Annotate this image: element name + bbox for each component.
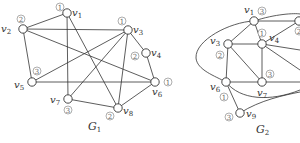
- graph-g2: v13v22v32v41v61v73v93G2: [196, 4, 300, 137]
- color-number: 1: [260, 30, 264, 38]
- color-number: 2: [218, 52, 222, 60]
- vertex-v7: [258, 78, 266, 86]
- color-number: 2: [297, 28, 300, 36]
- vertex-label: v7: [50, 94, 60, 107]
- vertex-v1: [250, 17, 258, 25]
- graph-name: G2: [256, 123, 269, 137]
- vertex-v3: [124, 26, 132, 34]
- vertex-label: v5: [14, 79, 24, 92]
- edge-v3-v6: [226, 44, 228, 82]
- color-number: 3: [227, 114, 231, 122]
- edge: [262, 44, 300, 50]
- vertex-v2: [19, 25, 27, 33]
- vertex-label: v3: [210, 35, 220, 48]
- vertex-label: v7: [257, 87, 267, 100]
- color-number: 3: [268, 71, 272, 79]
- graph-g1: v11v22v31v42v53v61v73v82G1: [1, 3, 172, 134]
- color-number: 1: [58, 4, 62, 12]
- edge-v1-v7: [67, 13, 68, 99]
- vertex-v6: [222, 78, 230, 86]
- color-number: 2: [19, 16, 23, 24]
- edge-v3-v7: [68, 30, 128, 99]
- vertex-v6: [151, 78, 159, 86]
- vertex-v8: [114, 104, 122, 112]
- vertex-v4: [258, 40, 266, 48]
- color-number: 1: [120, 18, 124, 26]
- vertex-v4: [142, 49, 150, 57]
- edge-v2-v5: [23, 29, 32, 82]
- vertex-label: v1: [244, 4, 254, 17]
- color-number: 2: [108, 113, 112, 121]
- edge: [262, 44, 300, 70]
- color-number: 2: [133, 53, 137, 61]
- graph-name: G1: [88, 120, 101, 134]
- edge-v4-v2: [262, 21, 299, 44]
- vertex-label: v3: [133, 24, 143, 37]
- edge-v3-v7: [228, 44, 262, 82]
- vertex-v7: [64, 95, 72, 103]
- color-number: 1: [222, 94, 226, 102]
- color-number: 1: [166, 79, 170, 87]
- vertex-label: v4: [151, 47, 162, 60]
- vertex-label: v9: [246, 108, 256, 121]
- color-number: 3: [66, 107, 70, 115]
- graph-figure: v11v22v31v42v53v61v73v82G1 v13v22v32v41v…: [0, 0, 300, 143]
- edge-v7-v8: [68, 99, 118, 108]
- vertex-v2: [295, 17, 300, 25]
- vertex-v1: [63, 9, 71, 17]
- color-number: 3: [35, 68, 39, 76]
- edge-v1-v2: [23, 13, 67, 29]
- curved-edge: [196, 21, 254, 82]
- edge-v3-v8: [118, 30, 128, 108]
- color-number: 3: [260, 8, 264, 16]
- vertex-label: v8: [123, 105, 133, 118]
- vertex-v5: [28, 78, 36, 86]
- edge-v1-v8: [67, 13, 118, 108]
- vertex-label: v2: [1, 23, 11, 36]
- vertex-label: v1: [72, 7, 82, 20]
- vertex-v3: [224, 40, 232, 48]
- vertex-label: v6: [210, 81, 221, 94]
- vertex-v9: [236, 109, 244, 117]
- vertex-label: v6: [152, 86, 163, 99]
- edge-v1-v3: [228, 21, 254, 44]
